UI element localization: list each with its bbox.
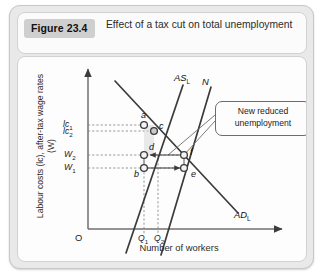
curve-label-as-l: ASL — [174, 72, 190, 85]
point-label-b: b — [134, 169, 139, 179]
figure-card: Figure 23.4 Effect of a tax cut on total… — [9, 5, 314, 269]
callout-text: New reduced unemployment — [216, 106, 307, 129]
guide-lines — [88, 125, 184, 235]
point-b — [141, 165, 148, 172]
point-c — [151, 128, 158, 135]
point-f — [181, 152, 188, 159]
chart-svg — [18, 57, 306, 261]
figure-title: Effect of a tax cut on total unemploymen… — [106, 18, 296, 31]
point-label-e: e — [191, 169, 196, 179]
point-a — [141, 122, 148, 129]
y-axis-title: Labour costs (lc), after-tax wage rates … — [35, 71, 57, 221]
point-d — [141, 152, 148, 159]
point-e — [181, 165, 188, 172]
figure-number-badge: Figure 23.4 — [24, 19, 95, 38]
y-tick-w2: W2 — [64, 149, 76, 161]
point-label-d: d — [149, 142, 154, 152]
annotation-arrows — [144, 153, 184, 170]
figure-caption-bar: Figure 23.4 Effect of a tax cut on total… — [17, 12, 307, 54]
point-label-c: c — [159, 121, 164, 131]
point-label-f: f — [190, 147, 193, 157]
curve-label-ad-l: ADL — [234, 209, 251, 222]
point-label-a: a — [141, 110, 146, 120]
curve-label-n: N — [202, 76, 209, 87]
y-tick-w1: W1 — [64, 162, 76, 174]
axis-lines — [88, 69, 282, 229]
origin-label: O — [75, 232, 82, 243]
callout-box: New reduced unemployment — [215, 101, 307, 136]
chart-panel: Labour costs (lc), after-tax wage rates … — [17, 56, 307, 262]
x-axis-title: Number of workers — [94, 242, 264, 253]
y-tick-lc2: lc2 — [63, 126, 73, 138]
